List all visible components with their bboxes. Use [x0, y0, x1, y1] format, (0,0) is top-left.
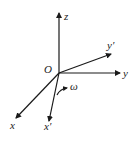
- rotation-arrow-icon: [57, 88, 67, 95]
- axis-y-label: y: [122, 67, 128, 79]
- axis-x-label: x: [9, 119, 15, 131]
- axis-z-label: z: [63, 10, 69, 22]
- axis-y-prime-label: y′: [106, 39, 115, 51]
- omega-label: ω: [70, 80, 78, 92]
- axes-group: zyy′xx′: [9, 10, 128, 132]
- axis-x-arrow: [16, 73, 59, 118]
- origin-label: O: [44, 63, 52, 75]
- axis-y-prime-arrow: [59, 54, 111, 73]
- axis-x-prime-arrow: [49, 73, 59, 121]
- coordinate-frame-diagram: zyy′xx′ ω O: [0, 0, 135, 141]
- axis-x-prime-label: x′: [43, 120, 52, 132]
